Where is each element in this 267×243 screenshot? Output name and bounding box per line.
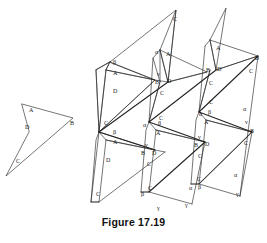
tess-label-α: α [243, 105, 247, 112]
tess-label-α: α [143, 121, 147, 128]
tess-label-c: C [147, 161, 151, 167]
tess-label-c: C [96, 191, 100, 197]
figure-container: ABCD βADCβADCCαAνBDCCαβAνBDCCβγABDCCαβAν… [0, 0, 267, 243]
tess-label-c: C [173, 16, 177, 22]
tess-label-a: A [113, 70, 118, 76]
figure-caption: Figure 17.19 [0, 216, 267, 228]
tess-label-ν: ν [245, 118, 248, 125]
tess-label-β: β [113, 128, 116, 135]
tess-label-d: D [113, 88, 118, 94]
tess-label-c: C [209, 99, 213, 105]
tess-label-b: B [206, 67, 210, 73]
tess-label-ν: ν [157, 70, 160, 77]
tess-label-β: β [198, 183, 201, 190]
tess-label-β: β [208, 108, 211, 115]
vertex-label-a: A [29, 107, 34, 113]
tess-label-γ: γ [235, 190, 239, 197]
tess-label-b: B [155, 79, 159, 85]
tess-label-a: A [166, 51, 171, 57]
tess-label-α: α [234, 171, 238, 178]
tess-label-a: A [156, 130, 161, 136]
tess-label-α: α [189, 184, 193, 191]
tess-label-ν: ν [145, 141, 148, 148]
tess-label-a: A [204, 119, 209, 125]
tess-label-c: C [148, 185, 152, 191]
tess-label-c: C [249, 68, 253, 74]
tess-label-d: D [152, 150, 157, 156]
tess-label-c: C [197, 176, 201, 182]
tess-label-β: β [158, 119, 161, 126]
tess-label-c: C [198, 153, 202, 159]
vertex-label-d: D [25, 124, 30, 130]
geometry-figure-svg: ABCD βADCβADCCαAνBDCCαβAνBDCCβγABDCCαβAν… [0, 0, 267, 243]
tess-label-c: C [209, 80, 213, 86]
tessellation-column-1 [91, 10, 176, 202]
tessellation-labels: βADCβADCCαAνBDCCαβAνBDCCβγABDCCαβAνBDCCα… [96, 16, 259, 211]
tess-label-d: D [205, 141, 210, 147]
tessellation-column-3 [191, 8, 258, 196]
tess-label-β: β [141, 190, 144, 197]
tess-label-d: D [106, 157, 111, 163]
tess-label-γ: γ [184, 201, 188, 208]
tess-label-c: C [104, 120, 108, 126]
tess-label-γ: γ [156, 204, 160, 211]
tess-label-b: B [250, 128, 254, 134]
tess-label-a: A [216, 45, 221, 51]
tess-label-c: C [160, 90, 164, 96]
tess-label-c: C [244, 140, 248, 146]
tess-label-ν: ν [198, 133, 201, 140]
tess-label-d: D [167, 78, 172, 84]
vertex-label-b: B [70, 120, 74, 126]
tess-label-b: B [255, 55, 259, 61]
tess-label-b: B [141, 150, 145, 156]
tess-label-d: D [217, 66, 222, 72]
tess-label-a: A [113, 139, 118, 145]
tess-label-b: B [194, 142, 198, 148]
sample-quadrilateral-shape [6, 104, 73, 176]
vertex-label-c: C [16, 158, 20, 164]
tess-label-β: β [113, 58, 116, 65]
